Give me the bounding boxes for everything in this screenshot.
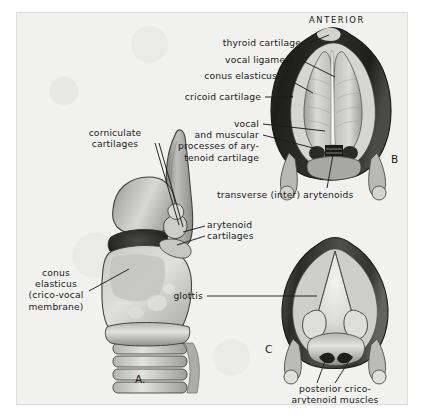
corniculate-cartilage [168,204,184,220]
anterior-heading: ANTERIOR [309,15,365,25]
cricoid-cartilage-lateral [105,323,189,347]
figure-letter-c: C [265,343,272,355]
label-arytenoid-cartilages: arytenoid cartilages [207,219,283,241]
illustration-plate: ANTERIOR thyroid cartilage vocal ligamen… [16,12,408,405]
label-transverse-inter-arytenoids: transverse (inter) arytenoids [217,189,397,200]
label-vocal-ligament: vocal ligament [105,54,295,65]
trachea [113,343,199,393]
label-conus-elasticus-b: conus elasticus [87,70,277,81]
laryngeal-anatomy-plate: ANTERIOR thyroid cartilage vocal ligamen… [0,0,422,419]
label-cricoid-cartilage: cricoid cartilage [79,91,261,102]
label-glottis: glottis [137,290,203,301]
label-posterior-cricoarytenoid-muscles: posterior crico- arytenoid muscles [271,383,399,405]
label-thyroid-cartilage: thyroid cartilage [105,37,301,48]
figure-letter-a: A. [135,373,145,385]
figure-letter-b: B [391,153,398,165]
posterior-cricoid-lamina-c [308,333,365,366]
label-conus-elasticus-a: conus elasticus (crico-vocal membrane) [19,267,93,312]
label-corniculate-cartilages: corniculate cartilages [69,127,161,149]
figure-a-artwork [102,130,200,393]
posterior-cricoid-plate-b [307,157,361,181]
figure-c-artwork [282,238,388,385]
